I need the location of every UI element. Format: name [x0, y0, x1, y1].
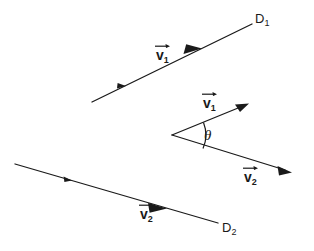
line-d1-group [92, 24, 252, 102]
angle-ray-v2 [172, 135, 285, 170]
angle-figure-group [172, 104, 292, 176]
label-vector-v2-on-d2: v2 [140, 207, 153, 221]
line-d2-tick-arrowhead [64, 177, 72, 183]
label-line-d2: D2 [222, 221, 236, 234]
label-vector-v1-angle-name: v [203, 95, 211, 111]
label-vector-v2-angle-sub: 2 [252, 177, 257, 187]
label-vector-v2-angle: v2 [244, 170, 257, 184]
label-vector-v1-on-d1-name: v [156, 47, 164, 63]
label-vector-v1-on-d1: v1 [156, 48, 169, 62]
label-line-d1: D1 [255, 12, 269, 25]
label-vector-v1-on-d1-sub: 1 [164, 55, 169, 65]
label-line-d2-name: D [222, 220, 231, 235]
label-line-d1-sub: 1 [264, 18, 269, 28]
line-d2-group [15, 164, 218, 223]
label-line-d2-sub: 2 [231, 227, 236, 237]
angle-ray-v2-arrowhead [278, 166, 293, 176]
vector-diagram-figure: D1 D2 v1 v2 v1 [0, 0, 314, 251]
label-vector-v1-angle-sub: 1 [211, 103, 216, 113]
line-d1 [92, 24, 252, 102]
label-vector-v2-angle-name: v [244, 169, 252, 185]
label-angle-theta: θ [204, 128, 211, 143]
label-vector-v1-angle: v1 [203, 96, 216, 110]
label-line-d1-name: D [255, 11, 264, 26]
line-d2 [15, 164, 218, 223]
label-vector-v2-on-d2-name: v [140, 206, 148, 222]
diagram-canvas [0, 0, 314, 251]
label-vector-v2-on-d2-sub: 2 [148, 214, 153, 224]
